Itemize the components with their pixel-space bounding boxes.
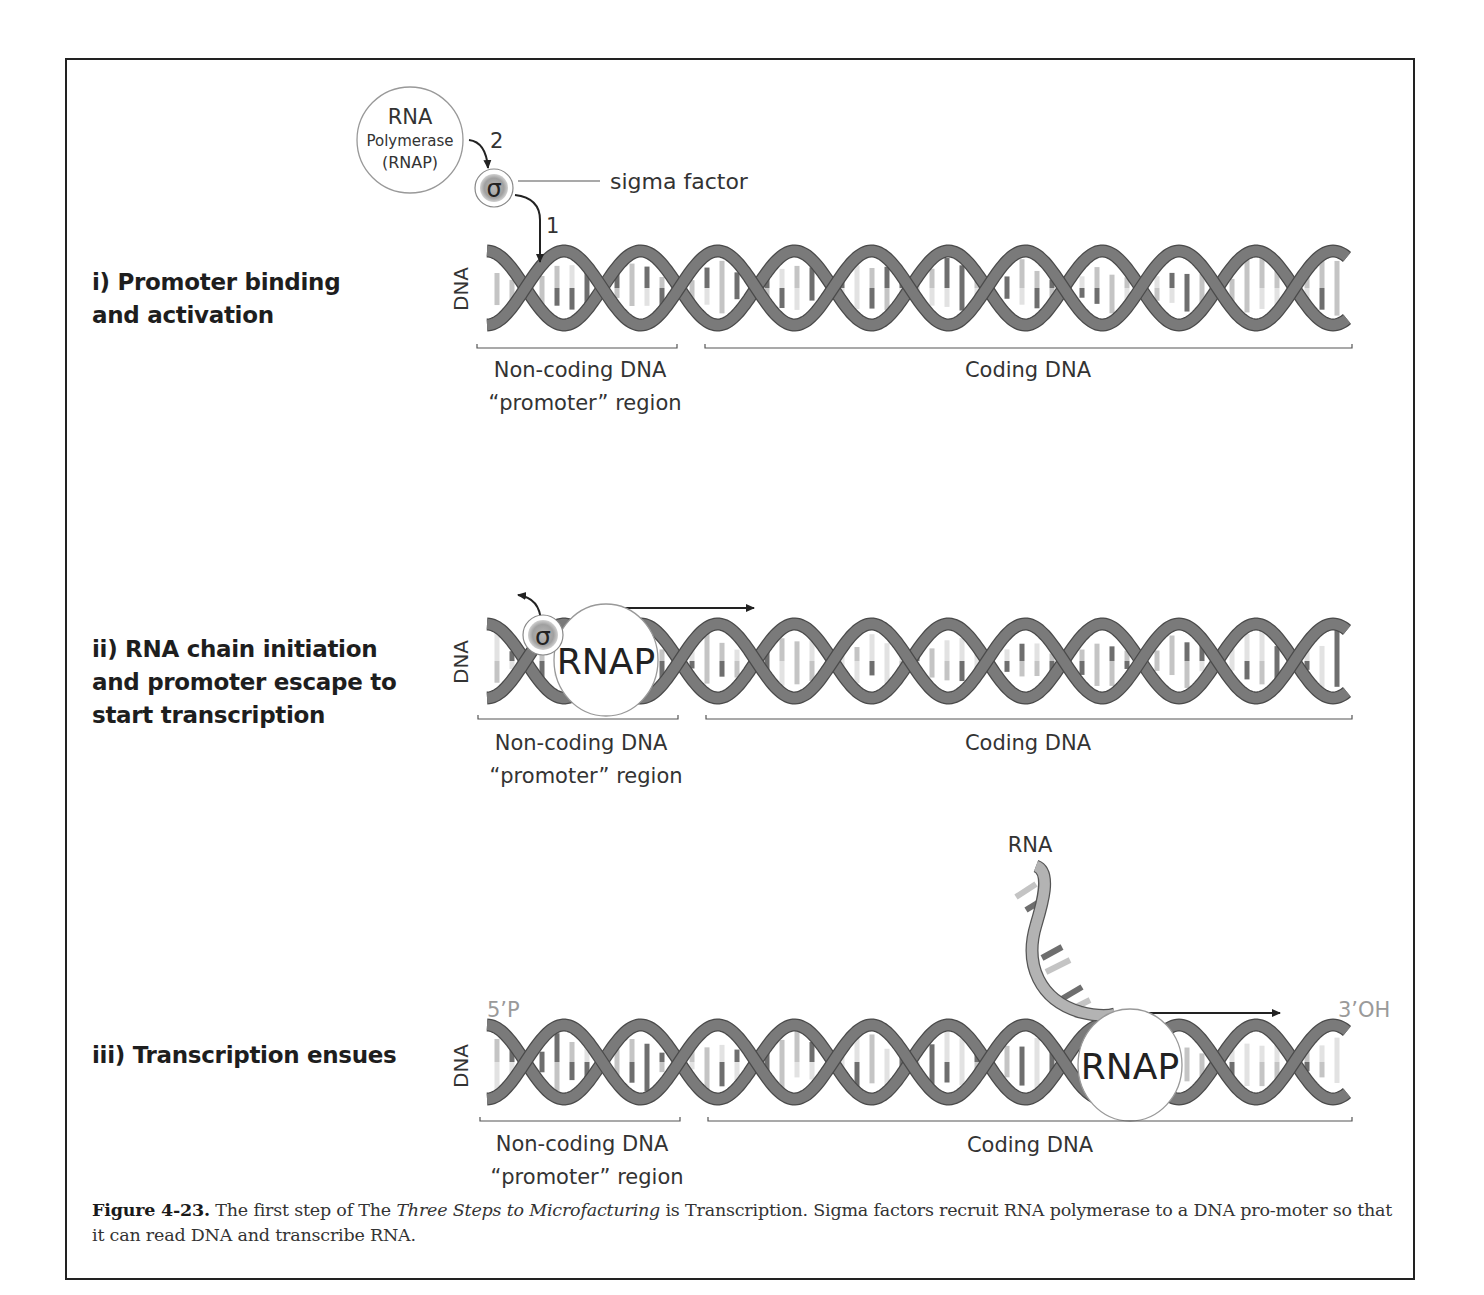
arrow-2-icon — [469, 140, 488, 168]
base — [495, 273, 500, 288]
base — [1110, 646, 1115, 661]
rna-polymerase-free: RNA Polymerase (RNAP) — [357, 87, 463, 193]
base — [885, 1049, 890, 1062]
base — [960, 265, 965, 288]
base — [870, 268, 875, 288]
base — [930, 648, 935, 661]
base — [1245, 288, 1250, 312]
base — [1170, 661, 1175, 675]
base — [495, 1039, 500, 1062]
rna-base — [1042, 947, 1062, 958]
base — [945, 1062, 950, 1083]
arrow-1-icon — [515, 195, 540, 262]
coding-bracket — [708, 1117, 1352, 1121]
base — [960, 1062, 965, 1085]
base — [1020, 661, 1025, 676]
base — [930, 269, 935, 288]
base — [540, 1062, 545, 1072]
dna-label: DNA — [449, 267, 473, 311]
base — [570, 288, 575, 310]
base — [855, 661, 860, 683]
transcription-diagram: RNA Polymerase (RNAP) 2 σ sigma factor 1… — [0, 0, 1484, 1295]
rna-strand — [1016, 866, 1115, 1015]
base — [645, 288, 650, 306]
base — [720, 643, 725, 661]
base — [660, 649, 665, 661]
base — [705, 268, 710, 288]
base — [1260, 288, 1265, 309]
figure-number: Figure 4-23. — [92, 1200, 210, 1220]
base — [1260, 1062, 1265, 1086]
base — [1185, 661, 1190, 688]
noncoding-label-line2: “promoter” region — [489, 764, 682, 788]
base — [630, 264, 635, 288]
base — [555, 288, 560, 306]
sigma-symbol: σ — [535, 622, 551, 651]
noncoding-bracket — [477, 344, 677, 348]
base — [1185, 288, 1190, 312]
base — [1080, 661, 1085, 675]
coding-label: Coding DNA — [965, 731, 1092, 755]
base — [1320, 1062, 1325, 1077]
base — [1335, 661, 1340, 687]
base — [855, 288, 860, 309]
figure-caption: Figure 4-23. The first step of The Three… — [92, 1198, 1402, 1248]
base — [1020, 259, 1025, 288]
base — [540, 1052, 545, 1062]
base — [555, 1062, 560, 1091]
rnap-label: RNAP — [1081, 1046, 1179, 1087]
dna-helix — [487, 245, 1348, 331]
noncoding-bracket — [480, 1117, 680, 1121]
base — [1155, 661, 1160, 671]
base — [1320, 661, 1325, 688]
base — [855, 265, 860, 288]
base — [1200, 661, 1205, 671]
arrow-2-label: 2 — [490, 129, 503, 153]
base — [1005, 288, 1010, 299]
rnap-label-line1: RNA — [388, 105, 433, 129]
base — [1080, 288, 1085, 298]
base — [705, 661, 710, 684]
base — [720, 288, 725, 313]
caption-book-title: Three Steps to Microfacturing — [396, 1200, 660, 1220]
base — [1185, 1048, 1190, 1062]
base — [885, 643, 890, 661]
base — [1020, 1062, 1025, 1086]
base — [1110, 661, 1115, 686]
coding-bracket — [706, 715, 1352, 719]
rnap-label-line2: Polymerase — [367, 132, 454, 150]
noncoding-label-line2: “promoter” region — [490, 1165, 683, 1189]
noncoding-label-line1: Non-coding DNA — [494, 358, 667, 382]
base — [1185, 642, 1190, 661]
sigma-symbol: σ — [486, 175, 501, 203]
base — [1110, 288, 1115, 313]
base — [720, 1045, 725, 1062]
coding-bracket — [705, 344, 1352, 348]
base — [1020, 644, 1025, 661]
base — [1245, 260, 1250, 288]
rna-polymerase: RNAP — [554, 604, 658, 716]
dna-label: DNA — [449, 1044, 473, 1088]
base — [780, 638, 785, 661]
base — [705, 288, 710, 305]
base — [780, 661, 785, 686]
coding-label: Coding DNA — [965, 358, 1092, 382]
rna-base — [1046, 960, 1070, 972]
base — [735, 288, 740, 299]
base — [945, 258, 950, 288]
sigma-factor: σ — [475, 169, 513, 207]
base — [780, 269, 785, 288]
base — [1260, 1046, 1265, 1062]
caption-text-1: The first step of The — [210, 1200, 396, 1220]
base — [1185, 1062, 1190, 1081]
base — [570, 1062, 575, 1080]
base — [1245, 634, 1250, 661]
arrow-1-label: 1 — [546, 214, 559, 238]
base — [1245, 661, 1250, 679]
base — [960, 288, 965, 311]
base — [660, 277, 665, 288]
base — [1335, 288, 1340, 316]
base — [1335, 261, 1340, 288]
base — [1185, 274, 1190, 288]
base — [795, 641, 800, 661]
